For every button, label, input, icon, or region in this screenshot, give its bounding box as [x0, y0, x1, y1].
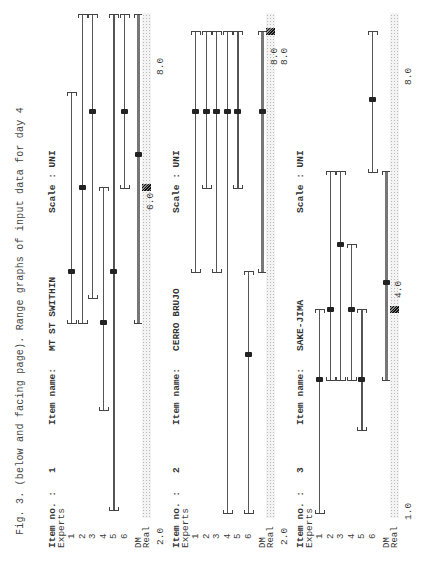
expert-id: 3	[88, 509, 98, 539]
upper-bracket-icon	[233, 31, 243, 35]
figure-caption: Fig. 3. (below and facing page). Range g…	[16, 107, 26, 535]
median-marker-icon	[213, 109, 220, 114]
median-marker-icon	[348, 307, 355, 312]
upper-bracket-icon	[191, 31, 201, 35]
range-line	[261, 32, 264, 272]
upper-bracket-icon	[88, 14, 98, 18]
median-marker-icon	[369, 97, 376, 102]
realization-band	[142, 13, 151, 518]
axis-tick-label: 2.0	[156, 528, 166, 545]
expert-id: 4	[347, 509, 357, 539]
median-marker-icon	[383, 280, 390, 285]
upper-bracket-icon	[223, 31, 233, 35]
item-name-value: SAKE-JIMA	[296, 300, 306, 351]
median-marker-icon	[245, 352, 252, 357]
lower-bracket-icon	[88, 295, 98, 299]
upper-bracket-icon	[315, 309, 325, 313]
real-label: Real	[390, 518, 400, 548]
range-line	[248, 272, 249, 513]
expert-range-bar	[233, 32, 242, 188]
median-marker-icon	[203, 109, 210, 114]
expert-range-bar	[120, 15, 129, 188]
median-marker-icon	[234, 109, 241, 114]
expert-id: 3	[212, 509, 222, 539]
scale-label: Scale : UNI	[48, 150, 58, 213]
expert-id: 2	[326, 509, 336, 539]
upper-bracket-icon	[67, 92, 77, 96]
expert-range-bar	[315, 310, 324, 513]
axis-tick-label: 8.0	[280, 48, 290, 65]
upper-bracket-icon	[120, 14, 130, 18]
median-marker-icon	[316, 377, 323, 382]
item-no-value: 2	[172, 467, 182, 473]
lower-bracket-icon	[202, 185, 212, 189]
expert-id: 5	[109, 509, 119, 539]
median-marker-icon	[100, 320, 107, 325]
range-line	[340, 172, 341, 380]
axis-tick-label: 8.0	[404, 68, 414, 85]
range-line	[227, 32, 228, 513]
lower-bracket-icon	[109, 507, 119, 511]
expert-range-bar	[368, 32, 377, 172]
lower-bracket-icon	[78, 320, 88, 324]
real-label: Real	[142, 518, 152, 548]
range-line	[92, 15, 93, 298]
lower-bracket-icon	[244, 510, 254, 514]
expert-id: 1	[67, 509, 77, 539]
median-marker-icon	[68, 269, 75, 274]
experts-label: Experts	[57, 508, 67, 548]
item-name-label: Item name:	[296, 368, 306, 425]
lower-bracket-icon	[212, 269, 222, 273]
expert-range-bar	[326, 172, 335, 380]
range-line	[71, 93, 72, 323]
upper-bracket-icon	[336, 171, 346, 175]
expert-range-bar	[223, 32, 232, 513]
expert-range-bar	[109, 15, 118, 510]
upper-bracket-icon	[357, 309, 367, 313]
realization-marker-icon	[390, 306, 399, 313]
realization-band	[390, 13, 399, 518]
upper-bracket-icon	[244, 271, 254, 275]
expert-id: 4	[99, 509, 109, 539]
expert-range-bar	[191, 32, 200, 272]
upper-bracket-icon	[109, 14, 119, 18]
axis-tick-label: 4.0	[394, 281, 404, 298]
axis-tick-label: 6.0	[146, 193, 156, 210]
range-line	[351, 245, 352, 380]
median-marker-icon	[79, 185, 86, 190]
axis-tick-label: 8.0	[156, 58, 166, 75]
upper-bracket-icon	[347, 244, 357, 248]
scale-label: Scale : UNI	[172, 150, 182, 213]
axis-tick-label: 2.0	[280, 528, 290, 545]
item-name-value: MT ST SWITHIN	[48, 277, 58, 351]
range-line	[385, 172, 388, 380]
item-no-value: 1	[48, 467, 58, 473]
median-marker-icon	[259, 109, 266, 114]
rotated-document-page: Fig. 3. (below and facing page). Range g…	[0, 0, 445, 573]
lower-bracket-icon	[191, 269, 201, 273]
expert-range-bar	[244, 272, 253, 513]
realization-marker-icon	[142, 184, 151, 191]
lower-bracket-icon	[357, 427, 367, 431]
lower-bracket-icon	[99, 407, 109, 411]
lower-bracket-icon	[347, 377, 357, 381]
realization-band	[266, 13, 275, 518]
range-line	[82, 15, 83, 323]
expert-range-bar	[212, 32, 221, 272]
expert-id: 3	[336, 509, 346, 539]
expert-range-bar	[357, 310, 366, 430]
range-line	[319, 310, 320, 513]
lower-bracket-icon	[326, 377, 336, 381]
expert-id: 5	[233, 509, 243, 539]
axis-tick-label: 1.0	[404, 503, 414, 520]
range-line	[372, 32, 373, 172]
range-line	[103, 188, 104, 410]
item-name-label: Item name:	[48, 368, 58, 425]
lower-bracket-icon	[315, 510, 325, 514]
median-marker-icon	[337, 242, 344, 247]
upper-bracket-icon	[368, 31, 378, 35]
expert-id: 2	[202, 509, 212, 539]
real-label: Real	[266, 518, 276, 548]
median-marker-icon	[135, 152, 142, 157]
item-no-value: 3	[296, 467, 306, 473]
